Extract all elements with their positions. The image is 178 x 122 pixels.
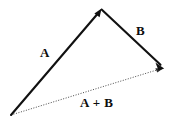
vector-b-line [102,10,161,65]
vector-b-group [102,10,165,71]
vector-addition-diagram: A B A + B [0,0,178,122]
vector-sum-label: A + B [80,96,113,109]
vector-a-label: A [40,46,49,59]
vector-b-label: B [136,24,145,37]
